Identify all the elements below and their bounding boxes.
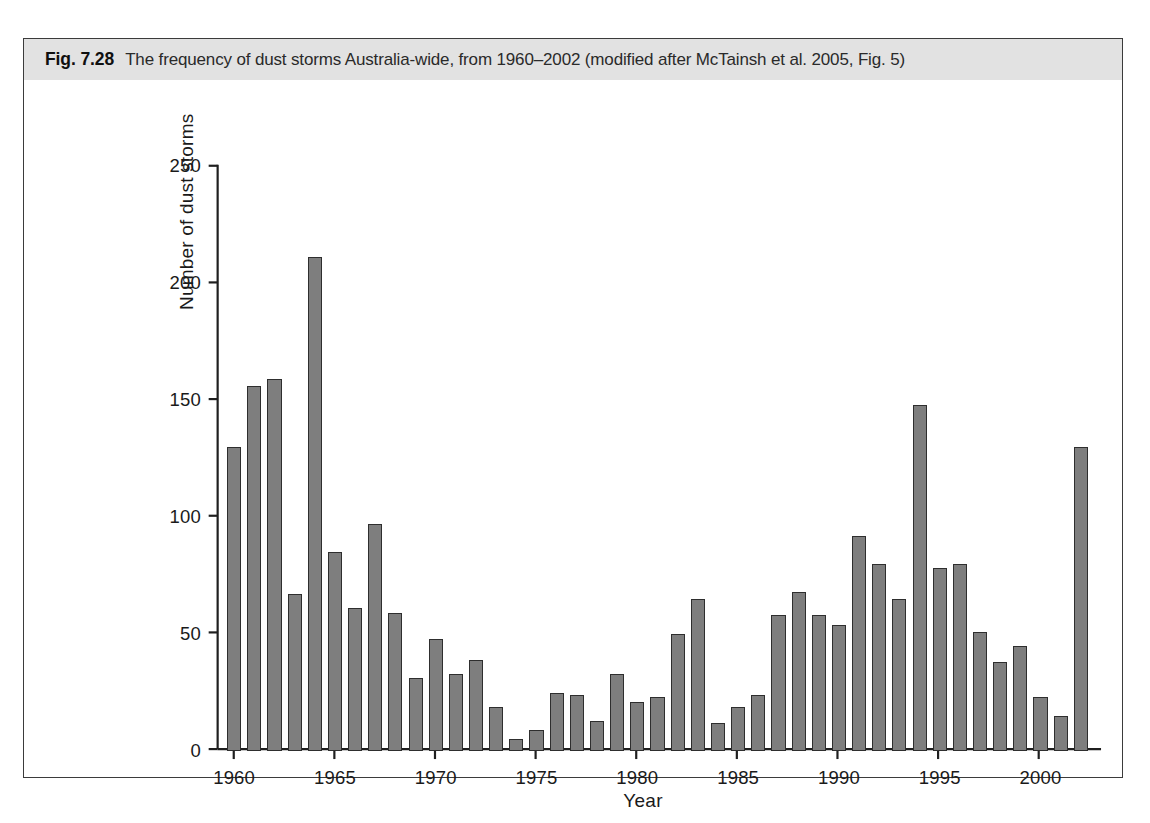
bar — [388, 613, 402, 751]
bar — [368, 524, 382, 751]
bar — [832, 625, 846, 751]
bar — [247, 386, 261, 751]
bar — [570, 695, 584, 751]
bar — [711, 723, 725, 751]
bar — [489, 707, 503, 751]
bar — [731, 707, 745, 751]
bar — [872, 564, 886, 751]
bar — [348, 608, 362, 751]
x-tick-label: 2000 — [1020, 767, 1062, 789]
x-tick-label: 1990 — [818, 767, 860, 789]
bar — [409, 678, 423, 751]
x-axis-label: Year — [24, 790, 1122, 812]
figure-caption-text: The frequency of dust storms Australia-w… — [125, 50, 905, 70]
bar — [973, 632, 987, 751]
y-tick-label: 200 — [24, 272, 201, 294]
bar — [429, 639, 443, 751]
bar — [550, 693, 564, 752]
figure-container: Fig. 7.28 The frequency of dust storms A… — [23, 38, 1123, 778]
figure-caption-band: Fig. 7.28 The frequency of dust storms A… — [24, 39, 1122, 80]
y-tick-label: 50 — [24, 623, 201, 645]
y-tick-label: 150 — [24, 389, 201, 411]
x-tick-label: 1980 — [616, 767, 658, 789]
x-tick-label: 1995 — [919, 767, 961, 789]
bar — [1054, 716, 1068, 751]
bar — [792, 592, 806, 751]
bar — [227, 447, 241, 751]
bar — [469, 660, 483, 751]
bar — [1033, 697, 1047, 751]
bar — [590, 721, 604, 751]
bar — [953, 564, 967, 751]
bar — [933, 568, 947, 751]
bar — [449, 674, 463, 751]
bar — [771, 615, 785, 751]
x-tick-label: 1970 — [415, 767, 457, 789]
bar — [650, 697, 664, 751]
bar — [288, 594, 302, 751]
bar — [1013, 646, 1027, 751]
bar-series — [24, 80, 1122, 777]
bar — [691, 599, 705, 751]
chart-plot-area: Number of dust storms Year 0501001502002… — [24, 80, 1122, 777]
bar — [671, 634, 685, 751]
figure-number-label: Fig. 7.28 — [45, 49, 114, 70]
x-tick-label: 1960 — [213, 767, 255, 789]
bar — [529, 730, 543, 751]
bar — [509, 739, 523, 751]
x-tick-label: 1985 — [717, 767, 759, 789]
bar — [308, 257, 322, 751]
bar — [993, 662, 1007, 751]
y-tick-label: 250 — [24, 155, 201, 177]
bar — [892, 599, 906, 751]
bar — [610, 674, 624, 751]
y-tick-label: 100 — [24, 506, 201, 528]
bar — [630, 702, 644, 751]
x-tick-label: 1965 — [314, 767, 356, 789]
bar — [267, 379, 281, 751]
bar — [812, 615, 826, 751]
x-tick-label: 1975 — [516, 767, 558, 789]
bar — [852, 536, 866, 751]
bar — [1074, 447, 1088, 751]
bar — [328, 552, 342, 751]
bar — [751, 695, 765, 751]
bar — [913, 405, 927, 751]
y-tick-label: 0 — [24, 740, 201, 762]
